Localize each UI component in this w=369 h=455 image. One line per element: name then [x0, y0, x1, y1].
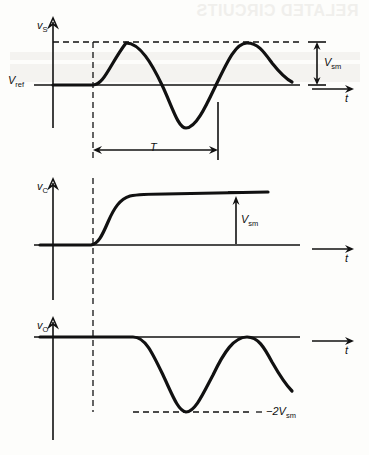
waveform-svg	[0, 0, 369, 455]
label-vref: Vref	[8, 74, 24, 89]
label-vsm-cap: Vsm	[241, 213, 258, 228]
panel-vo	[34, 310, 354, 440]
axis-label-t-1: t	[345, 92, 348, 104]
label-minus-2vsm: −2Vsm	[266, 405, 296, 420]
figure-canvas: RELATED CIRCUITS	[0, 0, 369, 455]
label-period-t: T	[150, 141, 157, 153]
label-vsm-source: Vsm	[324, 56, 341, 71]
axis-label-vs: vS	[37, 19, 48, 34]
axis-label-vo: vO	[37, 319, 48, 334]
panel-vc	[34, 178, 354, 305]
panel-vs	[34, 18, 354, 160]
axis-label-t-2: t	[345, 252, 348, 264]
axis-label-vc: vC	[37, 180, 48, 195]
axis-label-t-3: t	[345, 344, 348, 356]
